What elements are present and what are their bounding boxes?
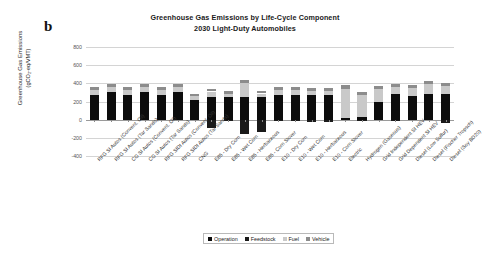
bar-segment-vehicle: [307, 88, 316, 91]
bar-segment-vehicle: [391, 84, 400, 87]
legend-label: Vehicle: [312, 236, 329, 242]
y-tick-label: 400: [56, 80, 82, 86]
bar-segment-fuel: [357, 95, 366, 118]
bar-segment-fuel: [157, 90, 166, 95]
bar-segment-fuel: [374, 89, 383, 102]
bar-segment-fuel: [207, 92, 216, 97]
bar-segment-vehicle: [441, 83, 450, 86]
bar-column: [90, 47, 99, 156]
legend-swatch-icon: [306, 237, 310, 241]
bar-segment-feedstock: [240, 120, 249, 134]
bar-segment-operation: [240, 97, 249, 120]
bar-segment-fuel: [190, 96, 199, 100]
legend-label: Operation: [214, 236, 238, 242]
x-tickmark: [211, 120, 212, 122]
bar-segment-operation: [374, 102, 383, 120]
bar-segment-fuel: [291, 90, 300, 95]
bar-column: [207, 47, 216, 156]
bar-segment-vehicle: [224, 91, 233, 94]
bar-segment-vehicle: [173, 84, 182, 87]
bar-segment-operation: [291, 95, 300, 120]
legend-swatch-icon: [245, 237, 249, 241]
bar-segment-fuel: [107, 87, 116, 92]
x-tickmark: [329, 120, 330, 122]
y-tick-label: 0: [56, 117, 82, 123]
legend-item: Fuel: [283, 236, 300, 242]
bar-segment-fuel: [140, 87, 149, 92]
x-tickmark: [94, 120, 95, 122]
y-axis-title-line-1: Greenhouse Gas Emissions: [16, 8, 24, 128]
bar-segment-operation: [123, 95, 132, 120]
bar-segment-vehicle: [240, 80, 249, 83]
bar-segment-operation: [90, 95, 99, 120]
bar-segment-fuel: [441, 86, 450, 94]
bar-segment-operation: [391, 94, 400, 120]
bar-segment-operation: [274, 95, 283, 120]
legend-swatch-icon: [283, 237, 287, 241]
bar-segment-operation: [324, 95, 333, 119]
x-tickmark: [395, 120, 396, 122]
bar-segment-vehicle: [107, 84, 116, 87]
bar-segment-fuel: [123, 90, 132, 95]
bar-segment-vehicle: [123, 87, 132, 90]
chart-title-block: Greenhouse Gas Emissions by Life-Cycle C…: [95, 12, 395, 34]
bar-segment-operation: [424, 94, 433, 120]
bar-segment-vehicle: [190, 94, 199, 97]
bar-segment-vehicle: [157, 87, 166, 90]
bar-segment-operation: [307, 95, 316, 119]
bar-segment-fuel: [341, 89, 350, 118]
y-axis-title: Greenhouse Gas Emissions (gCO₂-eq/VMT): [16, 8, 32, 128]
bar-segment-operation: [173, 92, 182, 120]
bar-segment-fuel: [324, 91, 333, 96]
y-axis-tick-labels: 8006004002000-200-400: [56, 47, 82, 156]
bar-segment-fuel: [408, 88, 417, 95]
legend-item: Operation: [208, 236, 238, 242]
x-tickmark: [412, 120, 413, 122]
bar-segment-operation: [190, 100, 199, 120]
y-tick-label: -200: [56, 135, 82, 141]
x-tickmark: [145, 120, 146, 122]
bar-segment-vehicle: [274, 87, 283, 90]
x-tickmark: [345, 120, 346, 122]
bar-segment-fuel: [90, 90, 99, 95]
y-tick-label: -400: [56, 153, 82, 159]
bar-segment-vehicle: [424, 81, 433, 84]
chart-title-line-2: 2030 Light-Duty Automobiles: [95, 23, 395, 34]
x-tickmark: [295, 120, 296, 122]
bar-segment-vehicle: [90, 87, 99, 90]
bar-segment-fuel: [307, 91, 316, 96]
legend-item: Vehicle: [306, 236, 329, 242]
bar-segment-vehicle: [341, 85, 350, 89]
x-tickmark: [446, 120, 447, 122]
y-axis-title-line-2: (gCO₂-eq/VMT): [24, 8, 32, 128]
x-tickmark: [195, 120, 196, 122]
x-tickmark: [262, 120, 263, 122]
x-tickmark: [429, 120, 430, 122]
legend-label: Fuel: [289, 236, 300, 242]
bar-segment-operation: [107, 92, 116, 120]
bar-segment-vehicle: [324, 88, 333, 91]
x-tickmark: [379, 120, 380, 122]
bar-segment-operation: [257, 97, 266, 120]
y-tick-label: 800: [56, 44, 82, 50]
bar-segment-vehicle: [207, 89, 216, 92]
bar-segment-vehicle: [374, 86, 383, 89]
bar-segment-operation: [157, 95, 166, 120]
x-tickmark: [228, 120, 229, 122]
panel-letter: b: [44, 18, 52, 35]
x-tickmark: [161, 120, 162, 122]
bar-segment-vehicle: [257, 91, 266, 94]
bar-column: [357, 47, 366, 156]
legend-item: Feedstock: [245, 236, 276, 242]
bar-segment-vehicle: [408, 85, 417, 88]
bar-segment-vehicle: [291, 87, 300, 90]
legend-swatch-icon: [208, 237, 212, 241]
x-tickmark: [362, 120, 363, 122]
y-tick-label: 200: [56, 99, 82, 105]
x-axis-tick-labels: RFG SI Autos (Convent. Oil)RFG SI Autos …: [86, 156, 454, 228]
bar-segment-fuel: [224, 94, 233, 97]
bar-segment-fuel: [240, 83, 249, 97]
bar-segment-fuel: [391, 87, 400, 94]
x-tickmark: [278, 120, 279, 122]
